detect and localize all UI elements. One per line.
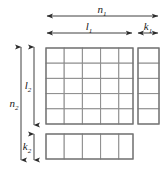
dimension-k1: k1 — [138, 20, 158, 35]
k2-label: k2 — [23, 140, 32, 155]
dimension-l1: l1 — [47, 20, 132, 35]
bottom-cell — [119, 134, 133, 159]
main-cell — [119, 48, 133, 63]
main-cell — [119, 63, 133, 78]
right-cell — [138, 48, 159, 63]
l1-label: l1 — [86, 20, 93, 35]
main-cell — [46, 78, 64, 93]
k1-label: k1 — [144, 20, 152, 35]
main-cell — [101, 94, 119, 109]
main-cell — [101, 63, 119, 78]
n2-label: n2 — [10, 97, 20, 112]
main-cell — [82, 94, 100, 109]
bottom-cell — [46, 134, 64, 159]
main-cell — [101, 78, 119, 93]
main-cell — [119, 78, 133, 93]
l2-label: l2 — [25, 79, 32, 94]
dimension-l2: l2 — [25, 47, 34, 125]
diagram-canvas: n1 l1 k1 n2 l2 — [0, 0, 164, 175]
bottom-cell — [82, 134, 100, 159]
main-cell — [82, 78, 100, 93]
dimension-n2: n2 — [10, 47, 22, 160]
right-cell — [138, 94, 159, 109]
main-block — [46, 48, 133, 124]
bottom-block — [46, 134, 133, 159]
main-cell — [64, 78, 82, 93]
main-cell — [64, 48, 82, 63]
dimension-k2: k2 — [23, 134, 34, 160]
main-cell — [64, 109, 82, 124]
main-cell — [46, 109, 64, 124]
bottom-cell — [64, 134, 82, 159]
main-cell — [64, 63, 82, 78]
right-block — [138, 48, 159, 124]
main-cell — [119, 109, 133, 124]
block-partition-diagram: n1 l1 k1 n2 l2 — [0, 0, 164, 175]
main-cell — [82, 109, 100, 124]
main-cell — [46, 63, 64, 78]
main-cell — [101, 48, 119, 63]
dimension-n1: n1 — [47, 3, 158, 18]
main-cell — [82, 63, 100, 78]
main-cell — [46, 94, 64, 109]
n1-label: n1 — [98, 3, 107, 18]
main-cell — [46, 48, 64, 63]
main-cell — [64, 94, 82, 109]
right-cell — [138, 109, 159, 124]
main-cell — [101, 109, 119, 124]
right-cell — [138, 78, 159, 93]
main-cell — [82, 48, 100, 63]
right-cell — [138, 63, 159, 78]
bottom-cell — [101, 134, 119, 159]
main-cell — [119, 94, 133, 109]
